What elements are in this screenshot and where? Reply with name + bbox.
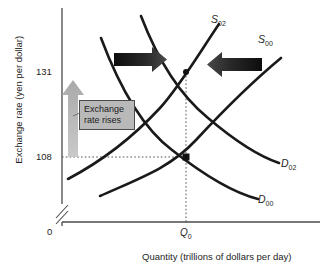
exchange-rate-rises-note: Exchange rate rises (79, 100, 135, 130)
x-tick-q0: Q0 (180, 228, 192, 240)
new-equilibrium-point (183, 69, 189, 75)
curve-label-s02: S02 (211, 14, 226, 27)
q0-main: Q (180, 227, 188, 238)
s00-sub: 00 (265, 40, 273, 47)
s02-main: S (211, 13, 218, 25)
d02-sub: 02 (289, 164, 297, 171)
q0-sub: 0 (188, 233, 192, 240)
curve-label-d00: D00 (258, 194, 273, 207)
d02-main: D (281, 157, 289, 169)
note-line-2: rate rises (84, 115, 130, 126)
curve-label-s00: S00 (258, 34, 273, 47)
s00-main: S (258, 33, 265, 45)
x-axis-title: Quantity (trillions of dollars per day) (142, 252, 291, 262)
y-tick-131: 131 (36, 67, 52, 77)
note-line-1: Exchange (84, 104, 130, 115)
y-tick-108: 108 (36, 152, 52, 162)
s02-sub: 02 (218, 20, 226, 27)
original-equilibrium-point (183, 154, 190, 161)
curve-label-d02: D02 (281, 158, 296, 171)
y-axis-title: Exchange rate (yen per dollar) (14, 15, 24, 185)
d00-main: D (258, 193, 266, 205)
origin-tick-0: 0 (47, 227, 52, 237)
d00-sub: 00 (266, 200, 274, 207)
